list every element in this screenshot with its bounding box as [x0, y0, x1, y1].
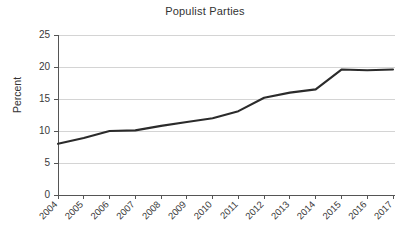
y-tick-label: 25 [39, 29, 51, 40]
y-tick-label: 20 [39, 61, 51, 72]
x-tick-label: 2006 [88, 199, 111, 222]
x-tick-label: 2013 [269, 199, 292, 222]
x-tick-label: 2015 [320, 199, 343, 222]
x-tick-label: 2014 [294, 199, 317, 222]
x-tick-label: 2012 [243, 199, 266, 222]
y-axis-ticks: 0510152025 [39, 29, 58, 200]
x-tick-label: 2016 [346, 199, 369, 222]
x-tick-label: 2017 [372, 199, 395, 222]
x-axis-ticks: 2004200520062007200820092010201120122013… [37, 195, 395, 221]
x-tick-label: 2007 [114, 199, 137, 222]
x-tick-label: 2011 [218, 199, 240, 221]
plot-area: 0510152025 20042005200620072008200920102… [0, 0, 410, 235]
x-tick-label: 2009 [166, 199, 189, 222]
y-tick-label: 0 [44, 189, 50, 200]
gridlines [58, 35, 395, 163]
data-series-line [58, 70, 393, 144]
chart-container: Populist Parties Percent 0510152025 2004… [0, 0, 410, 235]
x-tick-label: 2010 [191, 199, 214, 222]
x-tick-label: 2004 [37, 199, 60, 222]
y-tick-label: 5 [44, 157, 50, 168]
y-tick-label: 15 [39, 93, 51, 104]
x-tick-label: 2005 [62, 199, 85, 222]
x-tick-label: 2008 [140, 199, 163, 222]
y-tick-label: 10 [39, 125, 51, 136]
